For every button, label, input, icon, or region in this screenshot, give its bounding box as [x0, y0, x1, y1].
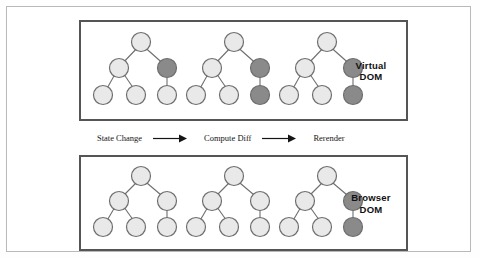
node-leaf-left [94, 86, 113, 105]
node-root [318, 167, 337, 186]
tree-graphic [184, 22, 284, 119]
node-leaf-right [251, 86, 270, 105]
node-leaf-left [280, 86, 299, 105]
panel-virtual-dom: Virtual DOM [79, 20, 408, 121]
node-leaf-mid [220, 218, 239, 237]
node-leaf-left [280, 218, 299, 237]
arrow-right-icon [262, 129, 296, 147]
node-leaf-right [344, 218, 363, 237]
node-leaf-mid [313, 218, 332, 237]
node-root [225, 33, 244, 52]
node-leaf-left [187, 86, 206, 105]
node-root [132, 167, 151, 186]
tree-graphic [184, 157, 284, 249]
node-right [158, 59, 177, 78]
node-root [132, 33, 151, 52]
outer-frame: Virtual DOM State Change Compute Diff [6, 6, 471, 252]
flow-step-rerender: Rerender [313, 133, 344, 143]
node-leaf-left [94, 218, 113, 237]
node-leaf-mid [127, 86, 146, 105]
node-left [296, 192, 315, 211]
node-root [225, 167, 244, 186]
node-leaf-mid [127, 218, 146, 237]
flow-row: State Change Compute Diff Rerender [79, 126, 408, 150]
node-leaf-mid [220, 86, 239, 105]
browser-dom-tree-1 [91, 157, 191, 249]
virtual-dom-tree-1 [91, 22, 191, 119]
panel-label-line-2: DOM [342, 203, 400, 215]
node-right [251, 59, 270, 78]
panel-label-browser-dom: Browser DOM [342, 192, 400, 215]
node-leaf-right [158, 218, 177, 237]
node-left [110, 192, 129, 211]
node-left [110, 59, 129, 78]
node-leaf-mid [313, 86, 332, 105]
panel-label-line-1: Virtual [342, 59, 400, 71]
panel-label-line-1: Browser [342, 192, 400, 204]
node-left [296, 59, 315, 78]
flow-step-compute-diff: Compute Diff [204, 133, 251, 143]
browser-dom-tree-2 [184, 157, 284, 249]
panel-label-virtual-dom: Virtual DOM [342, 59, 400, 82]
node-right [251, 192, 270, 211]
node-left [203, 59, 222, 78]
node-left [203, 192, 222, 211]
flow-step-state-change: State Change [97, 133, 142, 143]
virtual-dom-tree-2 [184, 22, 284, 119]
node-right [158, 192, 177, 211]
tree-graphic [91, 22, 191, 119]
node-leaf-right [251, 218, 270, 237]
tree-graphic [91, 157, 191, 249]
diagram-canvas: Virtual DOM State Change Compute Diff [0, 0, 480, 259]
arrow-right-icon [153, 129, 187, 147]
node-leaf-right [158, 86, 177, 105]
browser-dom-tree-group [87, 157, 344, 249]
panel-browser-dom: Browser DOM [79, 155, 408, 251]
node-root [318, 33, 337, 52]
panel-label-line-2: DOM [342, 71, 400, 83]
node-leaf-right [344, 86, 363, 105]
virtual-dom-tree-group [87, 22, 344, 119]
node-leaf-left [187, 218, 206, 237]
